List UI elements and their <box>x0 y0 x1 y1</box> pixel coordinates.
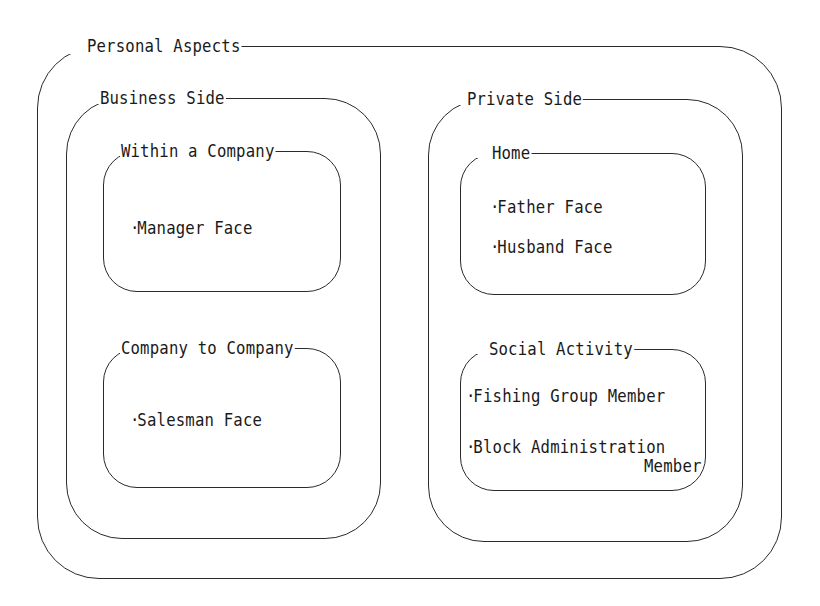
home-title: Home <box>491 143 531 163</box>
list-item: ·Husband Face <box>490 237 613 257</box>
bullet-icon: · <box>490 237 497 257</box>
item-label: Salesman Face <box>137 410 262 430</box>
list-item: ·Fishing Group Member <box>466 386 665 406</box>
list-item: ·Manager Face <box>130 218 253 238</box>
item-label: Block Administration <box>473 437 665 457</box>
bullet-icon: · <box>490 197 497 217</box>
item-label: Manager Face <box>137 218 252 238</box>
private-side-title: Private Side <box>466 89 583 109</box>
bullet-icon: · <box>466 437 473 457</box>
personal-aspects-title: Personal Aspects <box>86 36 241 56</box>
list-item: ·Salesman Face <box>130 410 262 430</box>
item-label: Father Face <box>497 197 603 217</box>
list-item: ·Father Face <box>490 197 603 217</box>
home-gap <box>474 148 492 158</box>
item-label: Fishing Group Member <box>473 386 665 406</box>
bullet-icon: · <box>130 410 137 430</box>
within-a-company-title: Within a Company <box>120 141 275 161</box>
personal-aspects-gap <box>60 40 86 54</box>
business-side-title: Business Side <box>99 88 226 108</box>
list-item: ·Block Administration <box>466 437 665 457</box>
bullet-icon: · <box>130 218 137 238</box>
bullet-icon: · <box>466 386 473 406</box>
item-label: Husband Face <box>497 237 612 257</box>
home-box <box>460 153 706 295</box>
private-side-gap <box>452 93 466 105</box>
company-to-company-title: Company to Company <box>120 338 295 358</box>
list-item-continuation: Member <box>644 456 702 476</box>
social-activity-title: Social Activity <box>488 339 634 359</box>
